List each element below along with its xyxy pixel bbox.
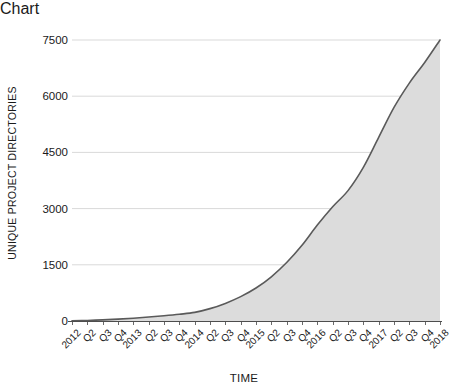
x-tick-mark (348, 322, 349, 325)
x-tick-mark (103, 322, 104, 325)
x-tick-mark (333, 322, 334, 325)
x-tick-mark (87, 322, 88, 325)
x-tick-mark (241, 322, 242, 325)
x-tick-mark (440, 322, 441, 325)
y-tick-label: 3000 (26, 203, 68, 215)
area-fill-path (72, 40, 440, 321)
x-tick-mark (425, 322, 426, 325)
y-axis-title-text: UNIQUE PROJECT DIRECTORIES (6, 86, 18, 260)
chart-container: UNIQUE PROJECT DIRECTORIES 0150030004500… (0, 18, 444, 386)
x-tick-mark (317, 322, 318, 325)
x-tick-mark (302, 322, 303, 325)
y-tick-label: 0 (26, 315, 68, 327)
y-tick-label: 4500 (26, 146, 68, 158)
y-axis-tick-labels: 015003000450060007500 (24, 18, 68, 386)
x-axis-line (68, 321, 442, 322)
x-tick-mark (271, 322, 272, 325)
x-tick-mark (72, 322, 73, 325)
x-tick-mark (133, 322, 134, 325)
x-tick-mark (409, 322, 410, 325)
y-tick-label: 7500 (26, 34, 68, 46)
x-tick-mark (363, 322, 364, 325)
x-axis-title-text: TIME (230, 372, 259, 384)
x-tick-mark (256, 322, 257, 325)
area-chart-svg (72, 40, 440, 321)
x-axis-title: TIME (0, 372, 444, 384)
x-tick-mark (210, 322, 211, 325)
x-tick-mark (164, 322, 165, 325)
x-tick-mark (394, 322, 395, 325)
x-tick-mark (149, 322, 150, 325)
y-axis-title: UNIQUE PROJECT DIRECTORIES (0, 18, 24, 328)
y-tick-label: 6000 (26, 90, 68, 102)
x-tick-mark (179, 322, 180, 325)
plot-area (72, 40, 440, 321)
x-tick-mark (379, 322, 380, 325)
x-tick-mark (118, 322, 119, 325)
y-tick-label: 1500 (26, 259, 68, 271)
x-tick-mark (287, 322, 288, 325)
x-tick-mark (195, 322, 196, 325)
x-tick-mark (225, 322, 226, 325)
